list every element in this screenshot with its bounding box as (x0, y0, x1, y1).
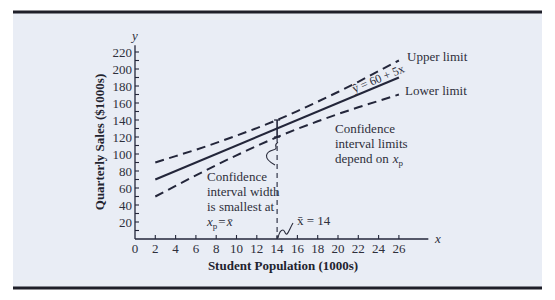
y-axis-symbol: y (130, 28, 138, 43)
width-note-line3: is smallest at (207, 199, 275, 214)
width-note-line2: interval width (207, 184, 280, 199)
x-tick-label: 20 (332, 241, 345, 256)
y-tick-label: 80 (119, 164, 132, 179)
width-note-xbar: x̄ (226, 214, 233, 229)
y-tick-label: 120 (113, 130, 133, 145)
width-note-sub: p (213, 221, 218, 231)
x-tick-label: 14 (271, 241, 285, 256)
y-tick-label: 180 (113, 79, 133, 94)
x-tick-label: 8 (213, 241, 220, 256)
x-tick-label: 12 (250, 241, 263, 256)
y-tick-label: 20 (119, 215, 132, 230)
y-tick-label: 220 (113, 45, 133, 60)
limits-note-line1: Confidence (335, 121, 395, 136)
x-tick-label: 6 (193, 241, 200, 256)
y-axis-title: Quarterly Sales ($1000s) (92, 74, 107, 210)
y-tick-label: 40 (119, 198, 132, 213)
figure: 02468101214161820222426 2040608010012014… (0, 0, 555, 300)
lower-limit-label: Lower limit (405, 83, 467, 98)
x-axis-title: Student Population (1000s) (208, 258, 358, 273)
limits-note-sub: p (399, 158, 404, 168)
x-tick-label: 2 (152, 241, 159, 256)
upper-limit-label: Upper limit (407, 49, 468, 64)
limits-note-text: depend on (335, 151, 389, 166)
y-tick-label: 160 (113, 96, 133, 111)
x-axis-symbol: x (434, 231, 441, 246)
width-note-eq: = (218, 214, 225, 229)
x-tick-label: 16 (291, 241, 305, 256)
xbar-label: x̄ = 14 (297, 213, 331, 228)
y-tick-label: 100 (113, 147, 133, 162)
x-tick-label: 10 (230, 241, 243, 256)
y-tick-label: 140 (113, 113, 133, 128)
x-tick-label: 24 (372, 241, 386, 256)
x-tick-label: 18 (311, 241, 324, 256)
x-tick-label: 22 (352, 241, 365, 256)
x-tick-label: 26 (392, 241, 406, 256)
y-tick-label: 60 (119, 181, 132, 196)
x-tick-label: 4 (172, 241, 179, 256)
width-note-line4: xp=x̄ (206, 214, 233, 231)
limits-note-line3: depend onxp (335, 151, 404, 168)
limits-note-line2: interval limits (335, 136, 408, 151)
x-tick-label: 0 (132, 241, 139, 256)
y-tick-label: 200 (113, 62, 133, 77)
width-note-line1: Confidence (207, 169, 267, 184)
